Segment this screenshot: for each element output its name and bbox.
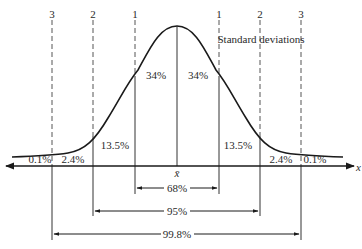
pct-left-tail: 0.1% [29,153,52,165]
pct-right-1-2: 13.5% [224,139,252,151]
sd-label-right-2: 2 [257,8,263,20]
range-95: 95% [95,205,258,217]
sd-label-left-3: 3 [49,8,55,20]
pct-left-0-1: 34% [146,69,166,81]
range-99-8-label: 99.8% [163,228,191,240]
pct-left-1-2: 13.5% [101,139,129,151]
range-95-label: 95% [167,205,187,217]
standard-deviations-annotation: Standard deviations [217,33,304,45]
pct-left-2-3: 2.4% [62,153,85,165]
range-68: 68% [137,182,217,194]
range-68-label: 68% [167,182,187,194]
range-99-8: 99.8% [54,228,299,240]
pct-right-2-3: 2.4% [270,153,293,165]
pct-right-0-1: 34% [188,69,208,81]
pct-right-tail: 0.1% [304,153,327,165]
sd-label-right-1: 1 [216,8,222,20]
sd-label-left-2: 2 [90,8,96,20]
sd-label-right-3: 3 [298,8,304,20]
x-axis-label: x [355,161,361,173]
sd-label-left-1: 1 [132,8,138,20]
mean-label: x̄ [174,167,180,179]
normal-distribution-diagram: x x̄ 3 2 1 1 2 3 Standard deviations 34%… [0,0,362,249]
